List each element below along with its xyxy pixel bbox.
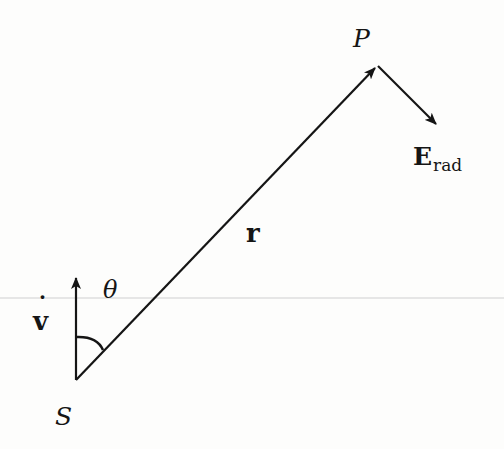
vector-r-arrow: [76, 68, 375, 380]
label-v-dot-mark: ˙: [36, 294, 49, 320]
label-point-p: P: [353, 26, 370, 51]
label-e-main: E: [413, 142, 432, 171]
label-e-rad: Erad: [413, 144, 462, 169]
label-vector-r: r: [246, 220, 260, 246]
label-e-subscript: rad: [433, 155, 462, 175]
label-v-dot: ˙ v: [33, 308, 48, 334]
angle-theta-arc: [76, 337, 103, 350]
radiation-field-diagram: P Erad r θ ˙ v S: [0, 0, 504, 449]
label-point-s: S: [55, 404, 72, 429]
label-angle-theta: θ: [103, 278, 117, 302]
vector-e-rad-arrow: [378, 66, 436, 124]
